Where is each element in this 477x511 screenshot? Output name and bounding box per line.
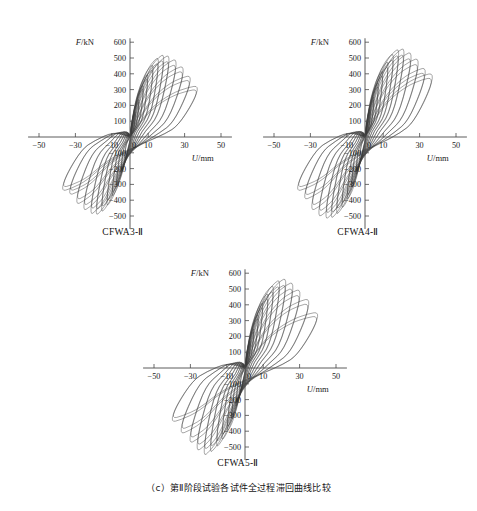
svg-text:F/kN: F/kN xyxy=(190,268,210,278)
panel-title-cfwa5: CFWA5-Ⅱ xyxy=(123,457,353,468)
svg-text:−400: −400 xyxy=(109,196,126,205)
svg-text:−200: −200 xyxy=(109,165,126,174)
chart-cfwa4: −50−30−101030500600500400300200100−100−2… xyxy=(243,14,473,229)
panel-cfwa4: −50−30−101030500600500400300200100−100−2… xyxy=(243,14,473,229)
svg-text:100: 100 xyxy=(114,117,126,126)
svg-text:30: 30 xyxy=(416,141,424,150)
svg-text:10: 10 xyxy=(259,372,267,381)
chart-cfwa3: −50−30−101030500600500400300200100−100−2… xyxy=(8,14,238,229)
svg-text:−30: −30 xyxy=(69,141,82,150)
svg-text:600: 600 xyxy=(229,269,241,278)
svg-text:0: 0 xyxy=(367,141,371,150)
svg-text:−400: −400 xyxy=(344,196,361,205)
svg-text:−50: −50 xyxy=(148,372,161,381)
svg-text:50: 50 xyxy=(332,372,340,381)
panel-title-cfwa3: CFWA3-Ⅱ xyxy=(8,226,238,237)
svg-text:−300: −300 xyxy=(224,411,241,420)
svg-text:U/mm: U/mm xyxy=(307,384,329,394)
svg-text:−200: −200 xyxy=(224,396,241,405)
hysteresis-figure: −50−30−101030500600500400300200100−100−2… xyxy=(0,0,477,511)
panel-cfwa3: −50−30−101030500600500400300200100−100−2… xyxy=(8,14,238,229)
svg-text:200: 200 xyxy=(229,332,241,341)
svg-text:F/kN: F/kN xyxy=(75,37,95,47)
svg-text:50: 50 xyxy=(217,141,225,150)
svg-text:−200: −200 xyxy=(344,165,361,174)
svg-text:10: 10 xyxy=(144,141,152,150)
panel-cfwa5: −50−30−101030500600500400300200100−100−2… xyxy=(123,245,353,460)
svg-text:200: 200 xyxy=(114,101,126,110)
svg-text:−500: −500 xyxy=(109,212,126,221)
svg-text:−500: −500 xyxy=(344,212,361,221)
svg-text:500: 500 xyxy=(114,54,126,63)
svg-text:400: 400 xyxy=(114,70,126,79)
panel-title-cfwa4: CFWA4-Ⅱ xyxy=(243,226,473,237)
svg-text:U/mm: U/mm xyxy=(192,153,214,163)
svg-text:400: 400 xyxy=(229,301,241,310)
svg-text:600: 600 xyxy=(114,38,126,47)
svg-text:100: 100 xyxy=(229,348,241,357)
figure-caption: （c）第Ⅱ阶段试验各试件全过程滞回曲线比较 xyxy=(0,481,477,494)
chart-cfwa5: −50−30−101030500600500400300200100−100−2… xyxy=(123,245,353,460)
svg-text:−50: −50 xyxy=(268,141,281,150)
svg-text:−50: −50 xyxy=(33,141,46,150)
svg-text:500: 500 xyxy=(349,54,361,63)
svg-text:30: 30 xyxy=(296,372,304,381)
svg-text:400: 400 xyxy=(349,70,361,79)
svg-text:600: 600 xyxy=(349,38,361,47)
svg-text:F/kN: F/kN xyxy=(310,37,330,47)
svg-text:100: 100 xyxy=(349,117,361,126)
svg-text:300: 300 xyxy=(229,317,241,326)
svg-text:50: 50 xyxy=(452,141,460,150)
svg-text:−100: −100 xyxy=(224,380,241,389)
svg-text:300: 300 xyxy=(114,86,126,95)
svg-text:300: 300 xyxy=(349,86,361,95)
svg-text:10: 10 xyxy=(379,141,387,150)
svg-text:−400: −400 xyxy=(224,427,241,436)
svg-text:−30: −30 xyxy=(304,141,317,150)
svg-text:200: 200 xyxy=(349,101,361,110)
svg-text:500: 500 xyxy=(229,285,241,294)
svg-text:−30: −30 xyxy=(184,372,197,381)
svg-text:−100: −100 xyxy=(109,149,126,158)
svg-text:−500: −500 xyxy=(224,443,241,452)
svg-text:0: 0 xyxy=(247,372,251,381)
svg-text:30: 30 xyxy=(181,141,189,150)
svg-text:0: 0 xyxy=(132,141,136,150)
svg-text:U/mm: U/mm xyxy=(427,153,449,163)
svg-text:−100: −100 xyxy=(344,149,361,158)
svg-text:−300: −300 xyxy=(109,180,126,189)
svg-text:−300: −300 xyxy=(344,180,361,189)
